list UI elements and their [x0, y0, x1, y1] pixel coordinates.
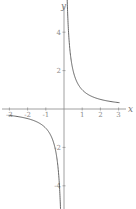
curve-right-branch — [67, 0, 119, 103]
x-axis-label: x — [128, 104, 133, 114]
x-tick-label: 1 — [80, 111, 84, 119]
y-tick-label: -4 — [54, 182, 61, 190]
x-axis: x — [2, 104, 133, 114]
hyperbola-chart: x y -3-2-1123 42-2-4 — [0, 0, 136, 209]
y-tick-label: 4 — [57, 29, 62, 37]
y-axis-label: y — [60, 1, 67, 11]
x-tick-label: 3 — [116, 111, 120, 119]
y-tick-label: 2 — [57, 67, 61, 75]
x-tick-label: -1 — [42, 111, 49, 119]
curve-left-branch — [8, 115, 60, 209]
x-tick-label: 2 — [98, 111, 102, 119]
